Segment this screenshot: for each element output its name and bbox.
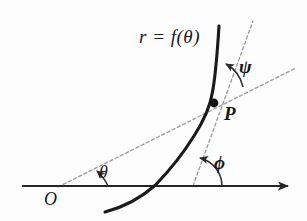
phi-angle-label: ϕ — [214, 153, 225, 172]
polar-curve-path — [105, 26, 219, 212]
origin-label: O — [44, 190, 57, 208]
curve-equation-label: r = f(θ) — [139, 27, 200, 46]
point-p-marker — [210, 99, 219, 108]
radial-ray-line — [58, 68, 296, 187]
psi-angle-label: ψ — [239, 57, 252, 76]
theta-angle-label: θ — [99, 163, 108, 181]
polar-tangent-diagram: r = f(θ) ψ P ϕ θ O — [0, 0, 307, 221]
point-p-label: P — [224, 104, 236, 123]
